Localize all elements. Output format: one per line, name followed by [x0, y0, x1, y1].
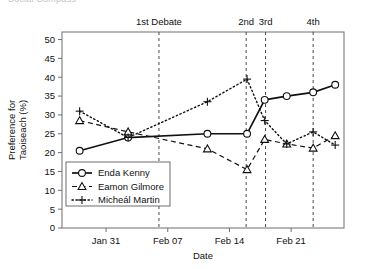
legend-label-2: Micheál Martin	[98, 194, 160, 205]
y-tick-label-4: 20	[44, 147, 55, 158]
y-tick-label-0: 0	[50, 222, 55, 233]
series-0-point-7	[332, 81, 339, 88]
series-0-point-4	[261, 96, 268, 103]
series-1-point-4	[261, 136, 269, 143]
x-tick-label-3: Feb 21	[276, 235, 306, 246]
x-tick-label-0: Jan 31	[92, 235, 121, 246]
y-axis-title: Preference forTaoiseach (%)	[6, 100, 28, 160]
event-label-2: 3rd	[259, 16, 273, 27]
series-1-point-0	[76, 117, 84, 124]
series-0-point-0	[76, 147, 83, 154]
y-tick-label-3: 15	[44, 166, 55, 177]
y-tick-label-2: 10	[44, 185, 55, 196]
x-axis-title: Date	[193, 250, 213, 261]
series-0-point-6	[310, 89, 317, 96]
y-tick-label-7: 35	[44, 90, 55, 101]
chart-svg: 05101520253035404550Jan 31Feb 07Feb 14Fe…	[0, 0, 365, 269]
event-label-3: 4th	[307, 16, 320, 27]
series-line-0	[80, 85, 336, 151]
series-0-point-2	[204, 130, 211, 137]
chart-figure: Social Compass 05101520253035404550Jan 3…	[0, 0, 365, 269]
y-tick-label-5: 25	[44, 128, 55, 139]
event-label-0: 1st Debate	[136, 16, 182, 27]
y-tick-label-8: 40	[44, 72, 55, 83]
legend-marker-0	[79, 170, 86, 177]
y-tick-label-6: 30	[44, 109, 55, 120]
x-tick-label-2: Feb 14	[215, 235, 245, 246]
series-0-point-3	[244, 130, 251, 137]
legend-label-0: Enda Kenny	[98, 167, 150, 178]
legend-label-1: Eamon Gilmore	[98, 181, 164, 192]
series-1-point-7	[331, 132, 339, 139]
y-tick-label-9: 45	[44, 53, 55, 64]
x-tick-label-1: Feb 07	[153, 235, 183, 246]
series-1-point-3	[243, 166, 251, 173]
y-tick-label-1: 5	[50, 204, 55, 215]
series-0-point-5	[283, 93, 290, 100]
y-tick-label-10: 50	[44, 34, 55, 45]
event-label-1: 2nd	[238, 16, 254, 27]
